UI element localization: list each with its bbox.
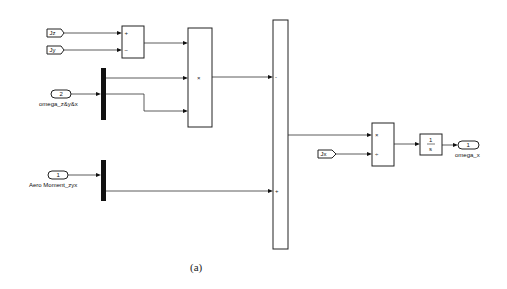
from-block-jz[interactable]: Jz (47, 29, 64, 37)
sum-block-2[interactable]: - + (273, 20, 288, 249)
sum1-sign-minus: − (125, 47, 129, 53)
from-jx-label: Jx (321, 151, 327, 157)
inport1-name: Aero Moment_zyx (29, 182, 77, 188)
divide-block[interactable]: × ÷ (372, 123, 394, 166)
from-block-jy[interactable]: Jy (47, 46, 64, 54)
sum-block-1[interactable]: + − (122, 26, 144, 58)
demux-block-1[interactable] (101, 68, 106, 120)
integrator-block[interactable]: 1 s (420, 134, 442, 155)
from-block-jx[interactable]: Jx (318, 150, 336, 158)
demux-block-2[interactable] (101, 160, 106, 201)
inport-1[interactable]: 1 Aero Moment_zyx (29, 171, 77, 188)
sum2-sign-plus: + (275, 188, 279, 194)
from-jy-label: Jy (50, 47, 56, 53)
diagram-canvas: Jz Jy + − × 2 omega_z&y&x 1 Aero Moment_… (0, 0, 507, 289)
outport-1[interactable]: 1 omega_x (455, 141, 480, 158)
figure-caption: (a) (190, 261, 203, 274)
sum2-sign-minus: - (275, 74, 277, 80)
outport1-name: omega_x (455, 152, 480, 158)
product-block-1[interactable]: × (188, 28, 212, 127)
divide-sign-multiply: × (375, 132, 379, 138)
inport2-name: omega_z&y&x (39, 101, 78, 107)
sum1-sign-plus: + (125, 30, 129, 36)
integrator-denominator: s (429, 146, 432, 152)
from-jz-label: Jz (50, 30, 56, 36)
product1-symbol: × (197, 75, 201, 81)
inport-2[interactable]: 2 omega_z&y&x (39, 90, 78, 107)
